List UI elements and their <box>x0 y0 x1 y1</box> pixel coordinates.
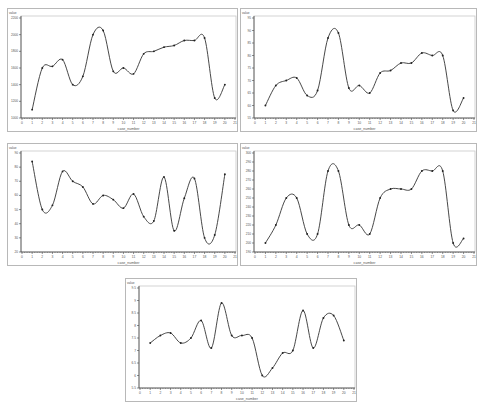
x-tick-label: 17 <box>430 121 434 125</box>
x-tick-label: 14 <box>162 255 166 259</box>
x-tick-label: 17 <box>193 255 197 259</box>
y-tick-label: 2000 <box>11 33 18 37</box>
data-point-marker <box>62 59 64 61</box>
line-chart-panel-5: value5.566.577.588.599.50123456789101112… <box>125 278 357 402</box>
data-point-marker <box>102 30 104 32</box>
x-tick-label: 8 <box>221 391 223 395</box>
x-tick-label: 5 <box>306 255 308 259</box>
data-point-marker <box>264 242 266 244</box>
x-tick-label: 4 <box>296 255 298 259</box>
data-point-marker <box>463 238 465 240</box>
data-point-marker <box>400 62 402 64</box>
data-point-marker <box>204 237 206 239</box>
x-tick-label: 3 <box>170 391 172 395</box>
x-tick-label: 11 <box>250 391 254 395</box>
x-tick-label: 1 <box>31 255 33 259</box>
y-tick-label: 1400 <box>11 83 18 87</box>
data-point-marker <box>285 197 287 199</box>
x-tick-label: 4 <box>62 121 64 125</box>
data-point-marker <box>292 350 294 352</box>
y-axis-title: value <box>9 146 17 150</box>
y-tick-label: 60 <box>247 104 251 108</box>
x-tick-label: 17 <box>311 391 315 395</box>
x-tick-label: 1 <box>31 121 33 125</box>
x-tick-label: 4 <box>296 121 298 125</box>
x-tick-label: 6 <box>317 255 319 259</box>
data-point-marker <box>200 320 202 322</box>
data-point-marker <box>272 367 274 369</box>
x-tick-label: 3 <box>52 121 54 125</box>
data-point-marker <box>317 90 319 92</box>
x-tick-label: 13 <box>152 255 156 259</box>
x-tick-label: 18 <box>203 255 207 259</box>
data-point-marker <box>214 234 216 236</box>
x-tick-label: 13 <box>389 121 393 125</box>
x-tick-label: 16 <box>420 121 424 125</box>
x-tick-label: 8 <box>102 121 104 125</box>
data-point-marker <box>343 340 345 342</box>
x-tick-label: 8 <box>338 255 340 259</box>
data-point-marker <box>82 75 84 77</box>
x-axis-label: case_number <box>118 261 141 265</box>
data-point-marker <box>410 62 412 64</box>
y-tick-label: 90 <box>14 151 18 155</box>
x-tick-label: 14 <box>162 121 166 125</box>
x-tick-label: 5 <box>72 255 74 259</box>
x-tick-label: 7 <box>327 255 329 259</box>
data-point-marker <box>173 230 175 232</box>
data-point-marker <box>452 242 454 244</box>
x-tick-label: 16 <box>420 255 424 259</box>
data-point-marker <box>41 209 43 211</box>
x-tick-label: 19 <box>332 391 336 395</box>
data-point-marker <box>153 50 155 52</box>
x-tick-label: 10 <box>357 121 361 125</box>
y-tick-label: 240 <box>246 205 252 209</box>
y-tick-label: 30 <box>14 236 18 240</box>
x-tick-label: 0 <box>254 121 256 125</box>
x-tick-label: 2 <box>159 391 161 395</box>
data-point-marker <box>31 161 33 163</box>
chart-svg: value19020021022023024025026027028029030… <box>241 144 478 267</box>
x-tick-label: 1 <box>265 121 267 125</box>
x-tick-label: 0 <box>21 121 23 125</box>
data-point-marker <box>369 233 371 235</box>
x-tick-label: 11 <box>132 121 136 125</box>
x-tick-label: 7 <box>327 121 329 125</box>
x-tick-label: 21 <box>472 121 476 125</box>
x-tick-label: 21 <box>233 255 237 259</box>
data-line <box>265 28 463 112</box>
x-tick-label: 3 <box>285 121 287 125</box>
x-tick-label: 20 <box>462 121 466 125</box>
data-point-marker <box>379 72 381 74</box>
y-tick-label: 65 <box>247 91 251 95</box>
y-tick-label: 40 <box>14 222 18 226</box>
data-point-marker <box>442 170 444 172</box>
x-tick-label: 1 <box>149 391 151 395</box>
x-tick-label: 20 <box>223 121 227 125</box>
data-point-marker <box>31 109 33 111</box>
x-tick-label: 13 <box>389 255 393 259</box>
x-tick-label: 12 <box>378 255 382 259</box>
y-tick-label: 55 <box>247 116 251 120</box>
chart-svg: value20304050607080900123456789101112131… <box>8 144 239 267</box>
x-tick-label: 20 <box>462 255 466 259</box>
x-tick-label: 0 <box>254 255 256 259</box>
line-chart-panel-3: value20304050607080900123456789101112131… <box>7 143 238 266</box>
data-point-marker <box>112 70 114 72</box>
x-tick-label: 18 <box>203 121 207 125</box>
y-tick-label: 60 <box>14 193 18 197</box>
line-chart-panel-4: value19020021022023024025026027028029030… <box>240 143 477 266</box>
x-tick-label: 10 <box>122 255 126 259</box>
data-point-marker <box>72 84 74 86</box>
x-tick-label: 9 <box>112 255 114 259</box>
data-point-marker <box>183 197 185 199</box>
y-tick-label: 20 <box>14 250 18 254</box>
data-line <box>265 164 463 247</box>
y-tick-label: 85 <box>247 41 251 45</box>
data-point-marker <box>302 310 304 312</box>
x-tick-label: 11 <box>132 255 136 259</box>
data-point-marker <box>163 176 165 178</box>
x-tick-label: 0 <box>139 391 141 395</box>
y-tick-label: 70 <box>247 79 251 83</box>
data-point-marker <box>241 335 243 337</box>
